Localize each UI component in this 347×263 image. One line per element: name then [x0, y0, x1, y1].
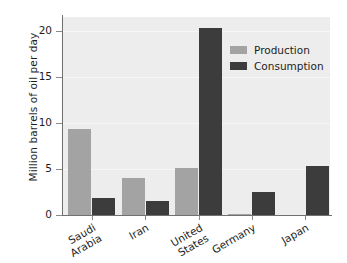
x-axis-tick	[145, 216, 146, 220]
x-axis-tick	[199, 216, 200, 220]
legend-label-production: Production	[254, 44, 310, 56]
gridline	[63, 31, 330, 32]
bar-consumption	[146, 201, 169, 215]
legend-swatch-consumption-icon	[230, 62, 247, 70]
gridline	[63, 77, 330, 78]
bar-consumption	[92, 198, 115, 215]
x-axis-tick	[92, 216, 93, 220]
y-axis-tick-label: 10	[12, 116, 52, 128]
y-axis-tick	[56, 169, 62, 170]
y-axis-tick	[56, 77, 62, 78]
y-axis-tick	[56, 31, 62, 32]
legend-item-production: Production	[230, 42, 324, 58]
x-axis-tick-label-line: Iran	[127, 221, 151, 242]
gridline	[63, 123, 330, 124]
x-axis-tick	[252, 216, 253, 220]
bar-consumption	[199, 28, 222, 215]
legend: Production Consumption	[230, 42, 324, 74]
y-axis-tick-label: 20	[12, 24, 52, 36]
bar-consumption	[252, 192, 275, 215]
y-axis-tick	[56, 123, 62, 124]
y-axis-tick	[56, 215, 62, 216]
legend-item-consumption: Consumption	[230, 58, 324, 74]
y-axis-tick-label: 15	[12, 70, 52, 82]
legend-label-consumption: Consumption	[254, 60, 324, 72]
x-axis-tick-label-line: Japan	[279, 221, 310, 246]
x-axis-line	[62, 215, 332, 216]
legend-swatch-production-icon	[230, 46, 247, 54]
y-axis-tick-label: 0	[12, 208, 52, 220]
bar-consumption	[306, 166, 329, 215]
bar-production	[175, 168, 198, 215]
bar-chart-figure: Million barrels of oil per day Productio…	[0, 0, 347, 263]
y-axis-line	[62, 15, 63, 216]
x-axis-tick	[305, 216, 306, 220]
x-axis-tick-label-line: Germany	[210, 221, 258, 256]
bar-production	[68, 129, 91, 215]
y-axis-tick-label: 5	[12, 162, 52, 174]
bar-production	[122, 178, 145, 215]
